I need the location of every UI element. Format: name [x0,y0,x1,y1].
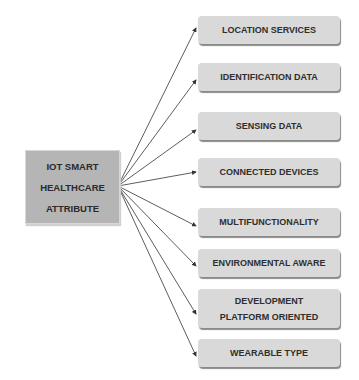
node-label: CONNECTED DEVICES [219,164,318,180]
node-label-line-2: PLATFORM ORIENTED [220,309,318,325]
arrow-identification-data [118,80,196,186]
node-wearable-type: WEARABLE TYPE [198,339,340,367]
arrow-development-platform [118,186,196,314]
root-node-iot-smart-healthcare-attribute: IOT SMART HEALTHCARE ATTRIBUTE [25,150,120,224]
node-development-platform-oriented: DEVELOPMENT PLATFORM ORIENTED [198,289,340,328]
node-identification-data: IDENTIFICATION DATA [198,63,340,91]
node-location-services: LOCATION SERVICES [198,16,340,44]
node-label: WEARABLE TYPE [230,345,308,361]
root-line-1: IOT SMART [46,156,98,177]
arrow-sensing-data [118,130,196,186]
node-multifunctionality: MULTIFUNCTIONALITY [198,208,340,236]
node-label: SENSING DATA [236,118,303,134]
root-line-2: HEALTHCARE [40,177,105,198]
node-connected-devices: CONNECTED DEVICES [198,158,340,186]
node-environmental-aware: ENVIRONMENTAL AWARE [198,249,340,277]
arrow-wearable-type [118,186,196,356]
node-label-line-1: DEVELOPMENT [235,293,304,309]
root-line-3: ATTRIBUTE [46,198,99,219]
node-label: ENVIRONMENTAL AWARE [213,255,326,271]
node-label: IDENTIFICATION DATA [220,69,318,85]
arrow-connected-devices [118,172,196,186]
arrow-location-services [118,28,196,186]
node-label: LOCATION SERVICES [222,22,316,38]
node-sensing-data: SENSING DATA [198,112,340,140]
node-label: MULTIFUNCTIONALITY [219,214,318,230]
arrow-multifunctionality [118,186,196,226]
arrow-environmental-aware [118,186,196,266]
